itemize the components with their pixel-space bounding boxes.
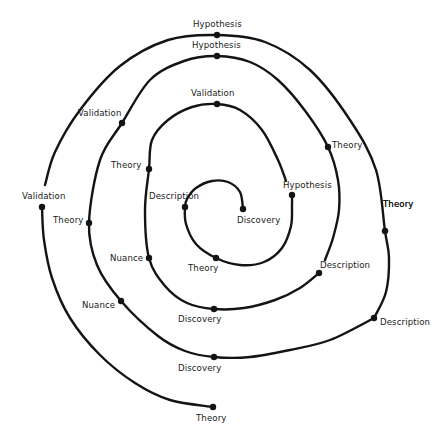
node-validation-2: Validation bbox=[78, 108, 125, 126]
node-label: Hypothesis bbox=[283, 180, 332, 190]
node-theory-6: Theory bbox=[382, 199, 414, 234]
node-theory-2: Theory bbox=[325, 140, 363, 150]
node-discovery-3: Discovery bbox=[178, 354, 221, 373]
node-dot bbox=[211, 306, 217, 312]
node-dot bbox=[119, 120, 125, 126]
research-spiral-diagram: Discovery Description Theory Hypothesis … bbox=[0, 0, 432, 437]
node-dot bbox=[371, 315, 377, 321]
node-theory-7: Theory bbox=[195, 404, 226, 423]
node-label: Discovery bbox=[178, 363, 221, 373]
node-validation-3: Validation bbox=[22, 191, 65, 210]
node-dot bbox=[39, 204, 45, 210]
node-dot bbox=[214, 53, 220, 59]
node-label: Description bbox=[380, 317, 430, 327]
node-nuance-2: Nuance bbox=[82, 298, 124, 310]
node-description-1: Description bbox=[149, 191, 199, 210]
node-label: Description bbox=[320, 260, 370, 270]
node-label: Nuance bbox=[82, 300, 115, 310]
node-dot bbox=[146, 166, 152, 172]
node-label: Theory bbox=[52, 215, 83, 225]
node-dot bbox=[211, 354, 217, 360]
node-dot bbox=[146, 255, 152, 261]
node-nuance-1: Nuance bbox=[110, 253, 152, 263]
node-theory-1: Theory bbox=[187, 255, 219, 273]
node-label: Description bbox=[149, 191, 199, 201]
node-dot bbox=[240, 206, 246, 212]
node-discovery-2: Discovery bbox=[178, 306, 221, 324]
node-label: Theory bbox=[331, 140, 362, 150]
spiral-segment-3 bbox=[89, 56, 374, 358]
node-dot bbox=[214, 101, 220, 107]
node-theory-5: Theory bbox=[52, 215, 92, 226]
node-dot bbox=[210, 404, 216, 410]
node-dot bbox=[325, 144, 331, 150]
node-label: Hypothesis bbox=[193, 19, 242, 29]
node-label: Theory bbox=[195, 413, 226, 423]
node-label: Theory bbox=[187, 263, 218, 273]
node-label: Nuance bbox=[110, 253, 143, 263]
node-dot bbox=[289, 192, 295, 198]
node-dot bbox=[316, 270, 322, 276]
node-discovery-1: Discovery bbox=[237, 206, 280, 225]
node-dot bbox=[382, 228, 388, 234]
node-label: Validation bbox=[22, 191, 65, 201]
node-label: Discovery bbox=[178, 314, 221, 324]
node-dot bbox=[182, 204, 188, 210]
spiral-nodes: Discovery Description Theory Hypothesis … bbox=[22, 19, 430, 423]
node-label: Validation bbox=[78, 108, 121, 118]
node-description-2: Description bbox=[316, 260, 370, 276]
node-dot bbox=[86, 220, 92, 226]
node-theory-3: Theory bbox=[110, 160, 152, 172]
node-hypothesis-1: Hypothesis bbox=[283, 180, 332, 198]
node-label: Discovery bbox=[237, 215, 280, 225]
node-dot bbox=[214, 32, 220, 38]
node-label: Theory bbox=[110, 160, 141, 170]
node-dot bbox=[118, 298, 124, 304]
node-label: Theory bbox=[382, 199, 413, 209]
node-description-3: Description bbox=[371, 315, 430, 327]
node-label: Hypothesis bbox=[192, 40, 241, 50]
node-label: Validation bbox=[191, 88, 234, 98]
node-dot bbox=[213, 255, 219, 261]
